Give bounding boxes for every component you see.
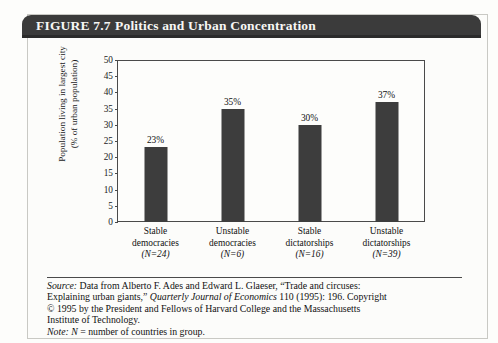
y-tick-label: 30 [95, 120, 113, 130]
bar-group: 37% [348, 60, 425, 222]
y-axis-title: Population living in largest city (% of … [57, 24, 85, 184]
category-label-line1: Unstable [342, 226, 432, 238]
y-tick-label: 35 [95, 104, 113, 114]
source-line-4: Institute of Technology. [47, 314, 467, 325]
source-line-3: © 1995 by the President and Fellows of H… [47, 303, 467, 314]
y-tick-label: 40 [95, 87, 113, 97]
source-line-2: Explaining urban giants,” Quarterly Jour… [47, 291, 467, 302]
bar-group: 35% [194, 60, 271, 222]
y-tick-mark [115, 222, 118, 223]
bar [221, 109, 244, 222]
bar-value-label: 23% [147, 135, 164, 145]
source-note-block: Source: Data from Alberto F. Ades and Ed… [47, 280, 467, 337]
bar-group: 23% [117, 60, 194, 222]
bar-group: 30% [271, 60, 348, 222]
bar-value-label: 30% [301, 113, 318, 123]
note-line: Note: N = number of countries in group. [47, 326, 467, 337]
figure-page: FIGURE 7.7 Politics and Urban Concentrat… [0, 0, 498, 343]
source-label: Source: [47, 280, 77, 291]
y-tick-label: 50 [95, 55, 113, 65]
source-line-1: Source: Data from Alberto F. Ades and Ed… [47, 280, 467, 291]
y-tick-label: 10 [95, 185, 113, 195]
note-n-symbol: N [69, 326, 78, 337]
bar [144, 147, 167, 222]
note-label: Note: [47, 326, 69, 337]
bar-chart: Population living in largest city (% of … [27, 44, 488, 276]
bar [298, 125, 321, 222]
category-label-line2: dictatorships [342, 238, 432, 250]
y-axis-tick-labels: 50454035302520151050 [93, 60, 113, 222]
note-text: = number of countries in group. [78, 326, 205, 337]
y-tick-label: 25 [95, 136, 113, 146]
y-tick-label: 15 [95, 168, 113, 178]
bar-value-label: 35% [224, 97, 241, 107]
source-line-2a: Explaining urban giants,” [47, 291, 150, 302]
source-divider [47, 277, 462, 278]
source-line-1-text: Data from Alberto F. Ades and Edward L. … [77, 280, 360, 291]
figure-header-banner: FIGURE 7.7 Politics and Urban Concentrat… [22, 15, 481, 38]
y-axis-title-line2: (% of urban population) [69, 24, 81, 184]
figure-title: Politics and Urban Concentration [115, 18, 316, 34]
y-tick-label: 45 [95, 71, 113, 81]
journal-name: Quarterly Journal of Economics [150, 291, 277, 302]
bar-value-label: 37% [378, 90, 395, 100]
y-tick-label: 20 [95, 152, 113, 162]
y-axis-title-line1: Population living in largest city [57, 24, 69, 184]
category-label: Unstabledictatorships(N=39) [342, 226, 432, 261]
y-tick-label: 5 [95, 201, 113, 211]
category-group-size: (N=39) [342, 249, 432, 261]
bar [375, 102, 398, 222]
source-line-2b: 110 (1995): 196. Copyright [277, 291, 387, 302]
